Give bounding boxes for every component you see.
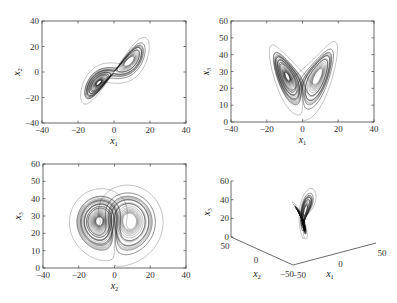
x2-tick-label: 0 — [254, 255, 259, 265]
y-axis-label: x2 — [11, 68, 23, 77]
x1-tick-label: 0 — [338, 259, 343, 269]
x-tick-label: 20 — [334, 124, 344, 134]
x-tick-label: 40 — [370, 124, 380, 134]
plot-frame — [231, 21, 374, 122]
y-tick-label: 10 — [31, 246, 41, 256]
x-tick-label: 0 — [300, 124, 305, 134]
plot-x2-x3: −40−20020400102030405060x2x3 — [12, 159, 191, 292]
y-tick-label: 30 — [219, 67, 229, 77]
x1-axis — [293, 243, 376, 265]
x-tick-label: −20 — [260, 124, 275, 134]
x3-axis-label: x3 — [201, 208, 213, 217]
y-axis-label: x3 — [200, 68, 212, 77]
plot-x1-x2: −40−2002040−40−2002040x1x2 — [11, 16, 191, 147]
x-tick-label: 20 — [146, 125, 156, 135]
figure: −40−2002040−40−2002040x1x2 −40−200204001… — [0, 0, 397, 303]
y-tick-label: 50 — [219, 33, 229, 43]
x2-tick-label: 50 — [221, 241, 231, 251]
x-tick-label: −20 — [71, 125, 86, 135]
y-tick-label: 40 — [30, 16, 40, 26]
x-axis-label: x1 — [109, 135, 118, 147]
y-tick-label: −40 — [25, 118, 40, 128]
trajectory-line — [69, 185, 163, 266]
x-tick-label: 40 — [182, 270, 192, 280]
plot-frame — [43, 164, 186, 268]
x-axis-label: x1 — [298, 134, 307, 146]
y-tick-label: 50 — [31, 176, 41, 186]
y-tick-label: 40 — [31, 194, 41, 204]
y-tick-label: 10 — [219, 100, 229, 110]
y-tick-label: 20 — [219, 83, 229, 93]
y-tick-label: 20 — [30, 42, 40, 52]
y-tick-label: 0 — [224, 117, 229, 127]
y-axis-label: x3 — [12, 212, 24, 221]
y-tick-label: 30 — [31, 211, 41, 221]
x1-tick-label: 50 — [378, 248, 388, 258]
y-tick-label: 0 — [36, 263, 41, 273]
y-tick-label: 60 — [31, 159, 41, 169]
plot-x1-x3: −40−20020400102030405060x1x3 — [200, 16, 379, 146]
x-axis-label: x2 — [110, 280, 119, 292]
y-tick-label: −20 — [25, 93, 40, 103]
x-tick-label: −20 — [72, 270, 87, 280]
y-tick-label: 20 — [31, 228, 41, 238]
x-tick-label: 40 — [182, 125, 192, 135]
x-tick-label: 20 — [146, 270, 156, 280]
x2-axis-label: x2 — [252, 268, 261, 280]
z-tick-label: 60 — [220, 176, 230, 186]
trajectory-3d-line — [292, 188, 316, 239]
y-tick-label: 40 — [219, 50, 229, 60]
x1-tick-label: −50 — [292, 270, 307, 280]
x-tick-label: 0 — [112, 125, 117, 135]
plot-3d-attractor: 0204060−50050−50050x2x1x3 — [201, 176, 387, 280]
z-tick-label: 40 — [220, 195, 230, 205]
trajectory-line — [269, 42, 337, 121]
x1-axis-label: x1 — [325, 268, 334, 280]
y-tick-label: 60 — [219, 16, 229, 26]
z-tick-label: 20 — [220, 213, 230, 223]
x2-axis — [231, 237, 293, 265]
trajectory-line — [81, 37, 150, 104]
y-tick-label: 0 — [35, 67, 40, 77]
x-tick-label: 0 — [112, 270, 117, 280]
